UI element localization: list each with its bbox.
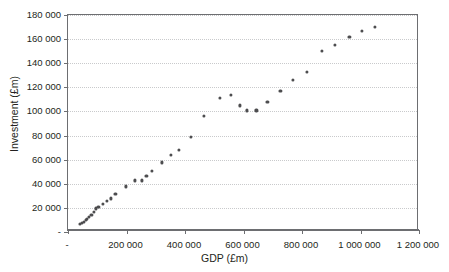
data-point [133,179,136,182]
x-axis-tick [185,230,186,234]
data-point [151,169,154,172]
data-point [105,200,108,203]
gridline-horizontal [68,184,417,185]
x-axis-tick [127,230,128,234]
y-axis-tick-label: 140 000 [1,57,61,68]
y-axis-tick-label: 100 000 [1,105,61,116]
gridline-horizontal [68,39,417,40]
data-point [160,161,163,164]
data-point [114,192,117,195]
y-axis-tick [64,15,68,16]
gridline-horizontal [68,136,417,137]
gridline-horizontal [68,160,417,161]
y-axis-tick [64,208,68,209]
y-axis-tick [64,39,68,40]
y-axis-tick-label: 80 000 [1,129,61,140]
plot-area [67,14,418,231]
y-axis-tick-label: 120 000 [1,81,61,92]
data-point [145,174,148,177]
y-axis-tick [64,63,68,64]
y-axis-tick-label: - [1,226,61,237]
x-axis-tick [302,230,303,234]
data-point [361,29,364,32]
y-axis-tick [64,136,68,137]
data-point [320,49,323,52]
data-point [218,97,221,100]
scatter-chart-figure: Investment (£m) GDP (£m) -20 00040 00060… [0,0,449,272]
x-axis-tick [244,230,245,234]
data-point [90,214,93,217]
gridline-horizontal [68,111,417,112]
data-point [238,104,241,107]
y-axis-tick-label: 40 000 [1,177,61,188]
x-axis-tick [361,230,362,234]
y-axis-tick-label: 180 000 [1,9,61,20]
data-point [292,79,295,82]
y-axis-tick [64,111,68,112]
data-point [189,135,192,138]
data-point [92,211,95,214]
data-point [178,149,181,152]
data-point [124,185,127,188]
gridline-horizontal [68,63,417,64]
data-point [101,203,104,206]
data-point [140,179,143,182]
data-point [279,89,282,92]
x-axis-title: GDP (£m) [0,252,449,264]
data-point [109,197,112,200]
data-point [306,70,309,73]
y-axis-tick [64,87,68,88]
x-axis-tick-label: 1 200 000 [373,239,449,250]
gridline-horizontal [68,87,417,88]
gridline-horizontal [68,208,417,209]
x-axis-tick [419,230,420,234]
x-axis-tick [68,230,69,234]
data-point [333,44,336,47]
y-axis-tick-label: 20 000 [1,201,61,212]
gridline-horizontal [68,15,417,16]
data-point [266,100,269,103]
data-point [169,153,172,156]
data-point [229,93,232,96]
y-axis-tick-label: 60 000 [1,153,61,164]
y-axis-tick [64,184,68,185]
y-axis-tick [64,160,68,161]
data-point [374,25,377,28]
y-axis-tick-label: 160 000 [1,33,61,44]
data-point [203,115,206,118]
